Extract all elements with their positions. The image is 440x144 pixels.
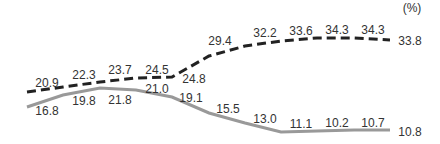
data-label: 22.3 xyxy=(72,68,96,82)
data-label: 33.6 xyxy=(289,24,313,38)
data-label: 32.2 xyxy=(253,26,277,40)
data-label: 11.1 xyxy=(290,117,313,131)
data-label: 33.8 xyxy=(398,34,422,48)
data-label: 29.4 xyxy=(208,34,232,48)
data-label: 10.2 xyxy=(325,116,349,130)
data-label: 13.0 xyxy=(253,112,277,126)
data-label: 23.7 xyxy=(108,63,132,77)
data-label: 10.8 xyxy=(398,125,422,139)
data-label: 24.8 xyxy=(182,72,206,86)
data-label: 15.5 xyxy=(216,102,240,116)
unit-label: (%) xyxy=(403,1,422,15)
data-label: 34.3 xyxy=(361,23,385,37)
data-label: 10.7 xyxy=(361,116,385,130)
data-label: 16.8 xyxy=(35,104,59,118)
line-chart: (%) 20.9 22.3 23.7 24.5 24.8 29.4 32.2 3… xyxy=(0,0,440,144)
data-label: 19.8 xyxy=(72,94,96,108)
data-label: 19.1 xyxy=(179,91,203,105)
dashed-series-labels: 20.9 22.3 23.7 24.5 24.8 29.4 32.2 33.6 … xyxy=(35,23,422,90)
data-label: 20.9 xyxy=(35,76,59,90)
data-label: 24.5 xyxy=(145,63,169,77)
data-label: 34.3 xyxy=(325,23,349,37)
data-label: 21.8 xyxy=(108,93,132,107)
data-label: 21.0 xyxy=(145,82,169,96)
